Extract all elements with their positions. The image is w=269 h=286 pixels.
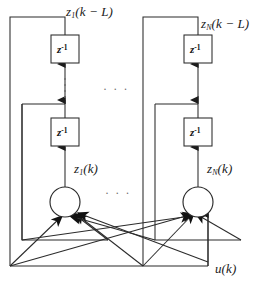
delay-right-bottom-label: z-1 — [190, 127, 201, 138]
horizontal-ellipsis-bottom: · · · — [105, 187, 131, 199]
delay-left-top-label: z-1 — [57, 44, 68, 55]
delay-right-top-label: z-1 — [190, 44, 201, 55]
state-label-right: zN(k) — [207, 162, 232, 177]
neuron-nodes — [50, 187, 213, 217]
delay-boxes — [51, 35, 212, 146]
conn-right-inner-to-neuron-right — [196, 214, 241, 240]
output-label-left: z1(k − L) — [66, 5, 113, 20]
output-label-right: zN(k − L) — [201, 17, 249, 32]
input-label-uk: u(k) — [215, 262, 236, 275]
delay-left-bottom-label: z-1 — [57, 127, 68, 138]
diagram-svg — [0, 0, 269, 286]
horizontal-ellipsis-top: · · · — [103, 83, 129, 95]
neuron-left — [50, 187, 80, 217]
conn-left-inner-rail-to-neuron-right — [22, 216, 191, 240]
diagram-canvas: z-1 z-1 z-1 z-1 z1(k − L) zN(k − L) z1(k… — [0, 0, 269, 286]
neuron-right — [183, 187, 213, 217]
state-label-left: z1(k) — [74, 162, 98, 177]
